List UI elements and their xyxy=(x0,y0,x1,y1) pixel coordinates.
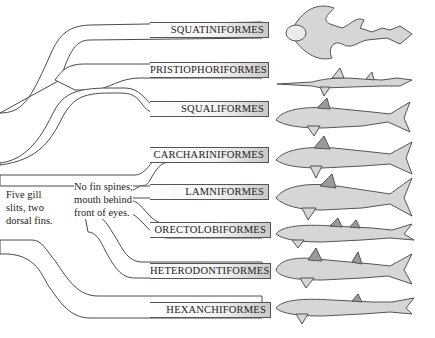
note-line: mouth behind xyxy=(74,193,133,206)
note-five-gill: Five gill slits, two dorsal fins. xyxy=(6,188,53,227)
note-line: slits, two xyxy=(6,201,53,214)
note-no-fin-spines: No fin spines; mouth behind front of eye… xyxy=(74,180,133,219)
label-hexanchiformes: HEXANCHIFORMES xyxy=(150,302,271,318)
ground-shark-icon xyxy=(272,134,422,178)
label-pristiophoriformes: PRISTIOPHORIFORMES xyxy=(150,62,269,78)
label-carchariniformes: CARCHARINIFORMES xyxy=(150,147,269,163)
note-line: front of eyes. xyxy=(74,206,133,219)
carpet-shark-icon xyxy=(272,214,422,250)
angel-shark-icon xyxy=(272,2,422,64)
note-line: dorsal fins. xyxy=(6,214,53,227)
sawshark-icon xyxy=(272,62,422,98)
note-line: Five gill xyxy=(6,188,53,201)
note-line: No fin spines; xyxy=(74,180,133,193)
label-orectolobiformes: ORECTOLOBIFORMES xyxy=(150,222,271,238)
sixgill-shark-icon xyxy=(272,290,422,326)
bullhead-shark-icon xyxy=(272,248,422,288)
dogfish-shark-icon xyxy=(272,96,422,138)
label-lamniformes: LAMNIFORMES xyxy=(150,184,269,200)
label-squatiniformes: SQUATINIFORMES xyxy=(150,22,269,38)
label-squaliformes: SQUALIFORMES xyxy=(150,101,269,117)
label-heterodontiformes: HETERODONTIFORMES xyxy=(150,263,271,279)
